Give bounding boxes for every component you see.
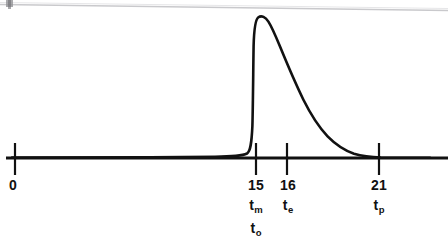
tick-21-symbol-tp: tp bbox=[359, 198, 399, 215]
tick-label-group-21: 21 tp bbox=[359, 178, 399, 215]
tick-label-group-16: 16 te bbox=[268, 178, 308, 215]
tick-label-0: 0 bbox=[9, 178, 17, 192]
te-base: t bbox=[283, 197, 288, 213]
figure-container: 0 15 tm to 16 te 21 tp bbox=[0, 0, 448, 249]
to-subscript: o bbox=[256, 227, 262, 238]
tick-16-symbol-te: te bbox=[268, 198, 308, 215]
tp-subscript: p bbox=[379, 204, 385, 215]
tick-label-0-number: 0 bbox=[9, 177, 17, 193]
tick-label-16-number: 16 bbox=[268, 178, 308, 192]
scan-artifact-top-line bbox=[0, 0, 448, 11]
tick-15-symbol-to: to bbox=[236, 221, 276, 238]
te-subscript: e bbox=[288, 204, 293, 215]
response-curve bbox=[12, 16, 430, 157]
tp-base: t bbox=[374, 197, 379, 213]
tick-label-21-number: 21 bbox=[359, 178, 399, 192]
to-base: t bbox=[251, 220, 256, 236]
tm-subscript: m bbox=[254, 204, 262, 215]
